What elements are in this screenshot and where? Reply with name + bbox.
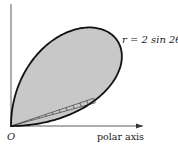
polar-axis-label: polar axis <box>97 131 144 142</box>
curve-label: r = 2 sin 2θ <box>122 34 178 45</box>
polar-axis-arrow-icon <box>136 124 143 129</box>
origin-label: O <box>7 131 15 142</box>
polar-diagram <box>0 0 178 151</box>
rose-loop <box>11 27 122 126</box>
